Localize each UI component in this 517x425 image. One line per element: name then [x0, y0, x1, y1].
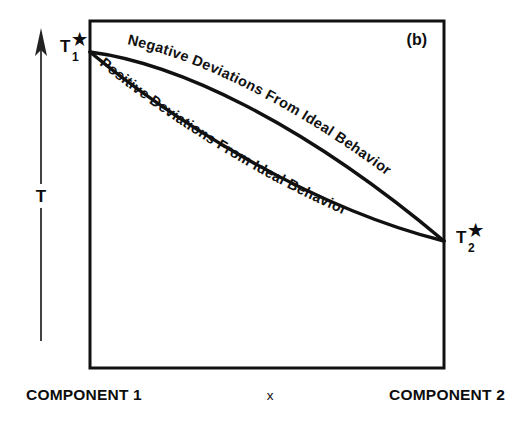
right-endpoint-label: T ★ 2: [456, 221, 484, 255]
left-endpoint-label: T ★ 1: [60, 30, 88, 64]
plot-frame: [90, 21, 444, 368]
upper-boundary-curve: [90, 52, 444, 241]
left-endpoint-subscript: 1: [72, 50, 79, 64]
right-endpoint-superscript: ★: [468, 221, 484, 240]
lower-boundary-curve: [90, 52, 444, 241]
y-axis-arrow: [35, 28, 47, 341]
right-endpoint-subscript: 2: [468, 241, 475, 255]
right-endpoint-symbol: T: [456, 228, 467, 247]
x-axis-label: x: [267, 388, 274, 403]
y-axis-label: T: [36, 187, 47, 206]
panel-label: (b): [407, 31, 427, 48]
left-component-label: COMPONENT 1: [26, 386, 142, 403]
left-endpoint-superscript: ★: [72, 30, 88, 49]
left-endpoint-symbol: T: [60, 37, 71, 56]
right-component-label: COMPONENT 2: [389, 386, 505, 403]
phase-diagram: T (b) Negative Deviations From Ideal Beh…: [0, 0, 517, 425]
figure-panel-b: T (b) Negative Deviations From Ideal Beh…: [0, 0, 517, 425]
